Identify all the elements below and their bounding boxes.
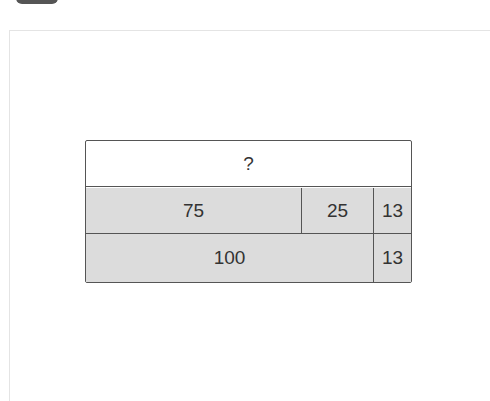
row2-cell-100: 100 [86,234,374,282]
bar-model: ? 75 25 13 100 13 [85,140,412,283]
row1-cell-25: 25 [302,188,374,234]
row2-cell-13: 13 [374,234,411,282]
total-unknown-cell: ? [86,141,411,187]
header-tab [16,0,58,4]
row1-cell-13: 13 [374,188,411,234]
row1-cell-75: 75 [86,188,302,234]
